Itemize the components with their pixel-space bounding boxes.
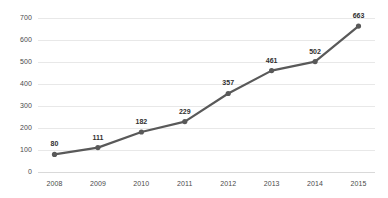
data-label-group: 80111182229357461502663 [0,0,388,198]
data-label-2010: 182 [121,118,161,126]
line-chart: 0100200300400500600700200820092010201120… [0,0,388,198]
data-label-2013: 461 [252,57,292,65]
data-label-2008: 80 [35,140,75,148]
data-label-2015: 663 [338,12,378,20]
data-label-2011: 229 [165,108,205,116]
data-label-2014: 502 [295,48,335,56]
data-label-2012: 357 [208,79,248,87]
data-label-2009: 111 [78,134,118,142]
